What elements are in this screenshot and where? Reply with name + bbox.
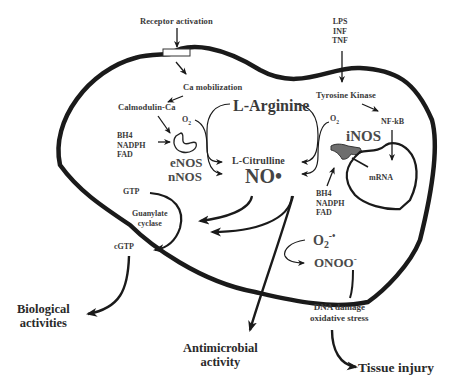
inos-label: iNOS (346, 129, 381, 144)
mrna-inos-line (352, 158, 368, 167)
nnos-label: nNOS (168, 170, 202, 183)
no-to-cyclase-arrow-2 (212, 196, 292, 232)
arginine-left-curve (207, 104, 230, 174)
cofactor-bh4: BH4 (117, 131, 145, 141)
cofactor-fad: FAD (117, 150, 145, 160)
antimicrobial-text: Antimicrobial (183, 341, 258, 355)
tyrosine-kinase-label: Tyrosine Kinase (316, 91, 376, 100)
ca-mobilization-arrow (176, 62, 186, 74)
guanylate-cyclase-label: Guanylate cyclase (132, 209, 168, 228)
guanylate-text: Guanylate (132, 209, 168, 219)
stimuli-label: LPS INF TNF (332, 17, 348, 46)
no-pathway-diagram (0, 0, 452, 391)
o2-left-sub: 2 (188, 120, 191, 126)
calmodulin-enos-arrow (158, 116, 170, 133)
cgtp-biological-arrow (88, 256, 129, 314)
superoxide-label: O2-• (313, 231, 336, 250)
superoxide-sub: 2 (324, 239, 329, 250)
biological-activities-label: Biological activities (17, 302, 70, 331)
inos-enzyme-shape (331, 144, 362, 159)
activity-text: activity (183, 355, 258, 369)
stimulus-inf: INF (332, 27, 348, 37)
nf-kb-label: NF-kB (381, 118, 404, 126)
biological-text: Biological (17, 302, 70, 316)
cofactor-right-bh4: BH4 (316, 189, 344, 199)
enos-label: eNOS (170, 156, 203, 169)
enos-enzyme-shape (174, 133, 196, 152)
mrna-label: mRNA (369, 174, 393, 182)
receptor-box (163, 49, 190, 56)
no-radical-label: NO• (245, 166, 282, 186)
stimulus-tnf: TNF (332, 36, 348, 46)
no-to-cyclase-arrow-1 (200, 196, 252, 221)
tissue-injury-label: Tissue injury (358, 360, 434, 376)
cofactor-right-fad: FAD (316, 208, 344, 218)
antimicrobial-activity-label: Antimicrobial activity (183, 341, 258, 370)
cofactor-right-nadph: NADPH (316, 199, 344, 209)
o2-right-sub: 2 (336, 119, 339, 125)
peroxynitrite-sup: - (354, 254, 357, 264)
calmodulin-ca-label: Calmodulin-Ca (118, 103, 176, 112)
peroxynitrite-text: ONOO (314, 255, 354, 270)
o2-right-curve (302, 122, 329, 174)
no-antimicrobial-arrow (250, 196, 293, 330)
oxidative-stress-text: oxidative stress (310, 313, 369, 324)
cofactors-right-arrow (327, 168, 334, 186)
peroxynitrite-dna-arrow (350, 270, 353, 298)
receptor-activation-label: Receptor activation (140, 17, 213, 26)
o2-right-label: O2 (330, 115, 339, 125)
peroxynitrite-label: ONOO- (314, 255, 357, 269)
dna-damage-label: DNA damage oxidative stress (310, 302, 369, 324)
gtp-label: GTP (123, 188, 139, 196)
ca-mobilization-label: Ca mobilization (183, 83, 242, 92)
stimulus-lps: LPS (332, 17, 348, 27)
activities-text: activities (17, 316, 70, 330)
cofactors-right-label: BH4 NADPH FAD (316, 189, 344, 218)
o2-left-label: O2 (182, 116, 191, 126)
l-arginine-label: L-Arginine (233, 98, 309, 114)
superoxide-to-peroxynitrite (285, 240, 305, 263)
cofactors-left-label: BH4 NADPH FAD (117, 131, 145, 160)
cgtp-label: cGTP (114, 243, 134, 251)
dna-damage-text: DNA damage (310, 302, 369, 313)
cyclase-text: cyclase (132, 219, 168, 229)
tyrosine-kinase-arrow (362, 104, 378, 111)
superoxide-sup: -• (329, 230, 336, 241)
cofactor-nadph: NADPH (117, 141, 145, 151)
dna-tissue-arrow (332, 330, 356, 367)
superoxide-text: O (313, 233, 324, 248)
